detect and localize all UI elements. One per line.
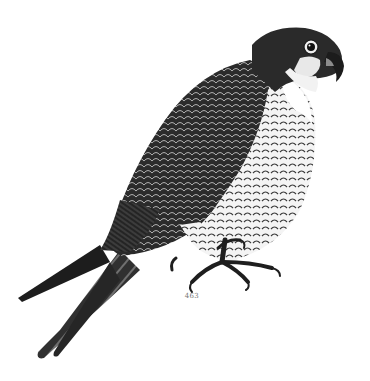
feet (172, 240, 281, 292)
eye (304, 40, 318, 54)
figure-number: 463 (180, 292, 204, 300)
tail (18, 245, 140, 358)
falcon-illustration (0, 0, 370, 381)
